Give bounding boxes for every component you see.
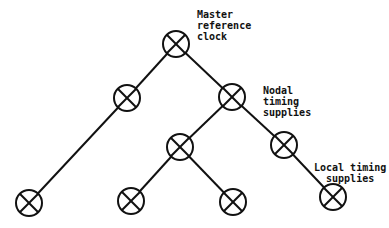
node-leaf-1: [16, 190, 42, 216]
node-l2-left: [167, 134, 193, 160]
nodes: [16, 31, 346, 216]
local-timing-supplies-label: Local timing supplies: [314, 162, 386, 184]
node-l1-left: [114, 85, 140, 111]
node-l1-right: [219, 84, 245, 110]
edges: [29, 44, 333, 203]
node-leaf-3: [220, 189, 246, 215]
timing-hierarchy-diagram: [0, 0, 389, 228]
edge-l1-left-leaf-1: [29, 98, 127, 203]
node-leaf-4: [320, 184, 346, 210]
nodal-timing-supplies-label: Nodal timing supplies: [263, 85, 311, 118]
node-root: [163, 31, 189, 57]
node-l2-right: [271, 132, 297, 158]
node-leaf-2: [118, 188, 144, 214]
master-reference-clock-label: Master reference clock: [197, 9, 251, 42]
